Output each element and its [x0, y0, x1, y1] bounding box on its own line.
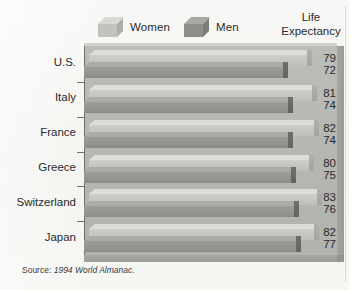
chart-legend: Women Men [98, 14, 273, 42]
bar-men-greece [84, 172, 291, 183]
legend-item-men: Men [184, 14, 239, 40]
legend-swatch-women-icon [98, 17, 123, 37]
legend-item-women: Women [98, 14, 170, 40]
value-column-header: Life Expectancy [276, 11, 346, 38]
axis-tick [77, 152, 85, 153]
bar-men-italy [84, 102, 288, 113]
category-label-japan: Japan [0, 231, 76, 243]
legend-swatch-men-icon [184, 17, 209, 37]
value-label-men-greece: 75 [310, 169, 336, 181]
bar-men-u-s [84, 67, 283, 78]
bar-men-japan [84, 241, 296, 252]
bar-men-france [84, 137, 288, 148]
category-label-greece: Greece [0, 161, 76, 173]
value-label-women-u-s: 79 [310, 52, 336, 64]
plot-panel-corner-bevel [337, 255, 344, 262]
source-text: 1994 World Almanac. [54, 265, 135, 275]
category-label-italy: Italy [0, 91, 76, 103]
value-label-women-italy: 81 [310, 87, 336, 99]
value-column-header-line1: Life [276, 11, 346, 25]
value-label-women-switzerland: 83 [310, 191, 336, 203]
value-label-women-greece: 80 [310, 157, 336, 169]
value-label-men-japan: 77 [310, 238, 336, 250]
value-column-header-line2: Expectancy [276, 25, 346, 39]
category-label-switzerland: Switzerland [0, 196, 76, 208]
category-label-u-s: U.S. [0, 56, 76, 68]
plot-panel-right-bevel [337, 46, 344, 255]
axis-tick [77, 117, 85, 118]
value-label-men-u-s: 72 [310, 64, 336, 76]
value-label-women-france: 82 [310, 122, 336, 134]
value-label-women-japan: 82 [310, 226, 336, 238]
scan-artifact-line [345, 6, 346, 282]
legend-label-men: Men [216, 21, 239, 33]
plot-panel-bottom-bevel [84, 255, 337, 262]
axis-tick [77, 82, 85, 83]
figure-container: Women Men Life Expectancy U.S.7972Italy8… [0, 0, 352, 290]
value-label-men-france: 74 [310, 134, 336, 146]
value-label-men-switzerland: 76 [310, 203, 336, 215]
bar-men-switzerland [84, 206, 294, 217]
axis-tick [77, 186, 85, 187]
legend-label-women: Women [130, 21, 170, 33]
category-label-france: France [0, 126, 76, 138]
source-prefix: Source: [22, 265, 51, 275]
axis-tick [77, 221, 85, 222]
value-label-men-italy: 74 [310, 99, 336, 111]
source-note: Source: 1994 World Almanac. [22, 265, 135, 275]
